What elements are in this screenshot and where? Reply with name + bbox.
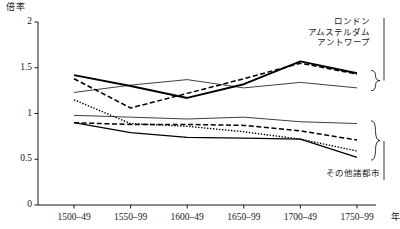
y-tick-label-1: 0.5	[4, 153, 32, 163]
y-tick-marks	[35, 22, 39, 205]
legend-item-antwerp: アントワープ	[308, 37, 370, 48]
y-tick-label-3: 1.5	[4, 62, 32, 72]
legend-upper-group: ロンドン アムステルダム アントワープ	[308, 16, 370, 48]
legend-item-other-cities: その他諸都市	[296, 168, 380, 179]
chart-container: 倍率 00.511.52 1500–491550–991600–491650–9…	[0, 0, 400, 229]
y-tick-label-2: 1	[4, 108, 32, 118]
data-series-group	[74, 61, 357, 157]
brace-lower-group	[371, 121, 380, 160]
x-tick-label-4: 1700–49	[268, 212, 332, 222]
y-tick-label-4: 2	[4, 16, 32, 26]
legend-leader-lines	[352, 141, 372, 164]
group-braces	[371, 70, 380, 160]
series-line-0	[74, 61, 357, 98]
legend-item-london: ロンドン	[308, 16, 370, 27]
x-tick-label-2: 1600–49	[155, 212, 219, 222]
x-tick-label-3: 1650–99	[212, 212, 276, 222]
legend-item-amsterdam: アムステルダム	[308, 27, 370, 38]
x-tick-marks	[74, 205, 357, 209]
brace-upper-group	[371, 70, 380, 90]
x-tick-label-1: 1550–99	[99, 212, 163, 222]
series-line-1	[74, 63, 357, 108]
y-tick-label-0: 0	[4, 199, 32, 209]
series-line-3	[74, 115, 357, 123]
x-axis-title: 年	[391, 212, 400, 222]
x-tick-label-5: 1750–99	[325, 212, 389, 222]
x-tick-label-0: 1500–49	[42, 212, 106, 222]
series-line-6	[74, 123, 357, 158]
